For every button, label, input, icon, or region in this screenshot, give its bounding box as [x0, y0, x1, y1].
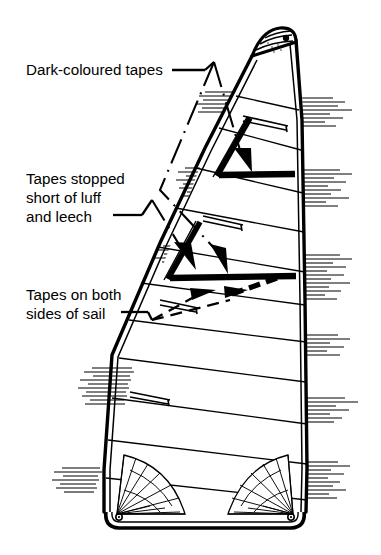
annotation-tapes-stopped-short-line1: Tapes stopped: [26, 170, 125, 187]
annotation-tapes-stopped-short-line2: short of luff: [26, 189, 102, 206]
leech-hatching: [300, 98, 358, 498]
annotation-tapes-both-sides-line1: Tapes on both: [26, 286, 121, 303]
sail-diagram: Dark-coloured tapes Tapes stopped short …: [0, 0, 381, 555]
annotation-tapes-stopped-short-line3: and leech: [26, 208, 92, 225]
annotation-tapes-both-sides-line2: sides of sail: [26, 305, 105, 322]
annotation-dark-coloured-tapes: Dark-coloured tapes: [26, 61, 163, 78]
figure-canvas: Dark-coloured tapes Tapes stopped short …: [0, 0, 381, 555]
